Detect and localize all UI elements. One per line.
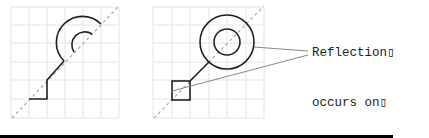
inner-arc	[72, 32, 92, 52]
caption-line: Reflection▯	[312, 45, 417, 62]
diagram: Reflection▯ occurs on▯ both sides▯ of th…	[0, 0, 429, 138]
bottom-bar	[0, 135, 393, 138]
callout-lines	[172, 47, 308, 91]
connector	[190, 62, 209, 81]
caption-text: Reflection▯ occurs on▯ both sides▯ of th…	[312, 12, 417, 138]
caption-line: occurs on▯	[312, 95, 417, 112]
outer-arc	[56, 16, 101, 61]
